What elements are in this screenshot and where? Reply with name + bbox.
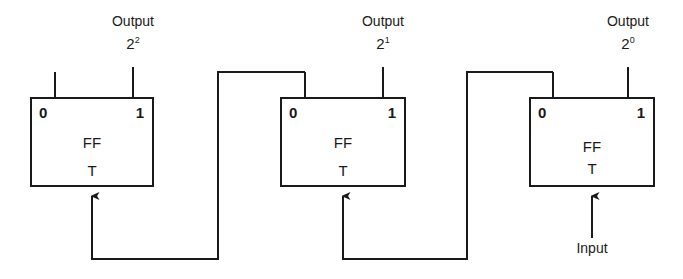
ff-type-label-stage3: T	[531, 161, 653, 176]
output-word-stage1: Output	[85, 14, 181, 29]
ff-label-stage2: FF	[282, 135, 404, 150]
output-label-stage2: Output 21	[335, 14, 431, 51]
ff-type-label-stage1: T	[32, 163, 152, 178]
input-label: Input	[556, 241, 628, 255]
terminal-label-0-stage1: 0	[39, 105, 47, 120]
ff-label-stage3: FF	[531, 139, 653, 154]
output-label-stage1: Output 22	[85, 14, 181, 51]
ff-type-label-stage2: T	[282, 163, 404, 178]
output-power-stage2: 21	[335, 36, 431, 52]
terminal-label-0-stage2: 0	[289, 105, 297, 120]
flip-flop-box-stage3[interactable]: 0 1 FF T	[529, 97, 655, 187]
terminal-label-1-stage2: 1	[388, 105, 396, 120]
terminal-label-1-stage3: 1	[637, 105, 645, 120]
output-word-stage2: Output	[335, 14, 431, 29]
flip-flop-box-stage1[interactable]: 0 1 FF T	[30, 97, 154, 187]
output-label-stage3: Output 20	[580, 14, 676, 51]
terminal-label-0-stage3: 0	[538, 105, 546, 120]
ripple-counter-diagram: Output 22 0 1 FF T Output 21 0 1 FF T Ou…	[0, 0, 683, 279]
terminal-label-1-stage1: 1	[136, 105, 144, 120]
flip-flop-box-stage2[interactable]: 0 1 FF T	[280, 97, 406, 187]
output-power-stage1: 22	[85, 36, 181, 52]
ff-label-stage1: FF	[32, 135, 152, 150]
output-word-stage3: Output	[580, 14, 676, 29]
output-power-stage3: 20	[580, 36, 676, 52]
